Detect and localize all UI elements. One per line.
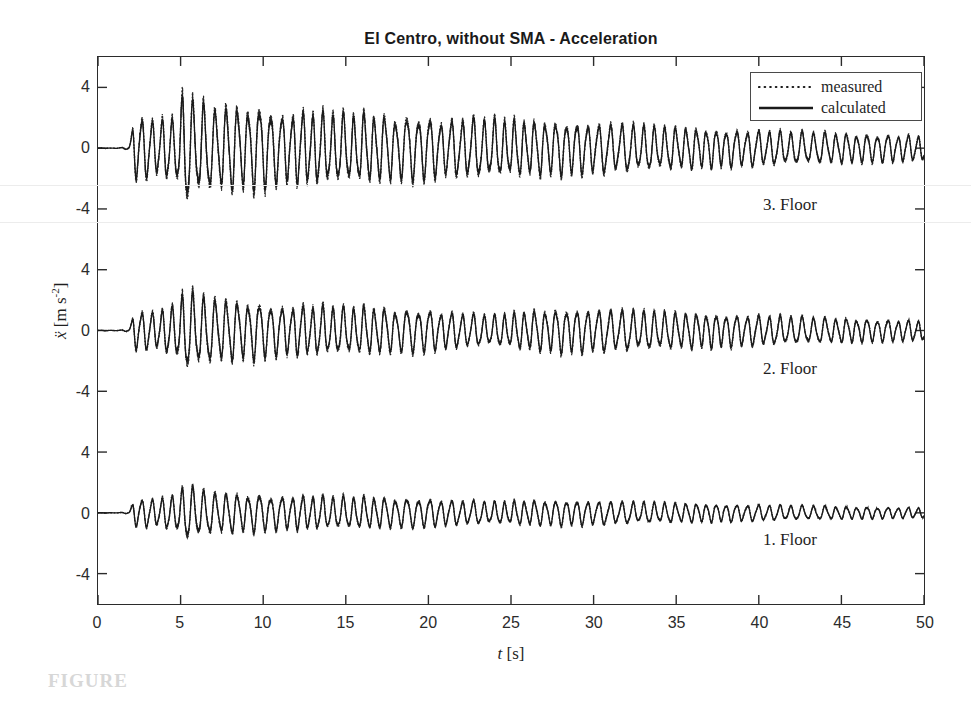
y-axis-unit-exponent: -2 [49,288,61,297]
legend[interactable]: measured calculated [750,72,922,121]
x-tick-label: 30 [569,614,619,632]
y-axis-variable: ẍ [51,331,70,339]
y-axis-label: ẍ [m s-2] [49,211,71,411]
panel-label-floor-1: 1. Floor [763,530,817,550]
panel-label-floor-3: 3. Floor [763,195,817,215]
trace-calculated [98,486,924,534]
y-tick-label: 0 [56,139,90,157]
x-axis-unit: [s] [507,644,525,663]
y-axis-unit-close: ] [51,283,70,289]
dotted-line-icon [758,81,814,93]
x-tick-label: 25 [486,614,536,632]
x-tick-label: 5 [155,614,205,632]
figure-container: El Centro, without SMA - Acceleration 40… [0,0,971,702]
plot-axes-frame [97,56,925,605]
legend-entry-calculated: calculated [758,97,914,118]
solid-line-icon [758,102,814,114]
x-tick-label: 35 [652,614,702,632]
panel-label-floor-2: 2. Floor [763,359,817,379]
page-title: El Centro, without SMA - Acceleration [97,30,925,48]
x-tick-label: 20 [403,614,453,632]
y-tick-label: 4 [56,78,90,96]
x-axis-ticks: 05101520253035404550 [97,614,925,638]
trace-calculated [98,292,924,361]
panel-trace-group [98,285,924,366]
y-axis-unit-open: [m s [51,297,70,327]
legend-entry-measured: measured [758,76,914,97]
x-tick-label: 15 [320,614,370,632]
x-axis-variable: t [498,644,503,663]
y-tick-label: -4 [56,566,90,584]
x-tick-label: 50 [900,614,950,632]
y-tick-label: 4 [56,444,90,462]
waveform-canvas [98,57,924,604]
legend-label-measured: measured [821,79,882,95]
x-tick-label: 45 [817,614,867,632]
x-tick-label: 40 [734,614,784,632]
x-axis-label: t [s] [97,644,925,664]
x-tick-label: 0 [72,614,122,632]
legend-label-calculated: calculated [821,100,886,116]
caption-text: FIGURE [48,670,128,692]
y-tick-label: 0 [56,505,90,523]
x-tick-label: 10 [238,614,288,632]
caption-strip: FIGURE [0,668,971,702]
